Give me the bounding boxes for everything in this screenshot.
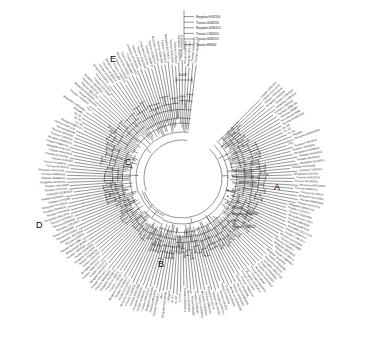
tree-branch [136,202,141,205]
tree-branch [132,208,139,213]
tree-branch [126,219,131,223]
inset-tip-label: Thiostan-GDB4/230 [196,21,219,25]
tree-branch [84,205,131,230]
tree-branch [93,113,140,148]
inset-tip-label: Mongolian-GDB/2012 [196,26,222,30]
tree-branch [150,106,152,111]
legend-symbol: ○ [227,182,229,185]
tree-branch [77,199,129,219]
tree-branch [146,149,151,153]
tree-branch [247,157,252,159]
tree-branch [152,222,155,227]
legend-label: Norovirus/GII/2009 [232,175,254,179]
tree-branch [161,251,163,259]
tree-branch [115,132,123,137]
tip-label: Thiostan-AH15/2012 [179,34,183,58]
scale-bar: 0.02 [176,72,192,83]
tree-branch [173,235,177,294]
tree-branch [122,217,128,221]
tree-branch [162,65,174,130]
tree-branch [206,215,211,223]
tree-branch [103,94,150,144]
tree-branch [244,173,252,174]
tree-branch [152,211,158,219]
tree-branch [70,158,128,168]
tree-branch [69,183,132,189]
tree-branch [67,180,130,182]
tree-branch [115,197,121,199]
tree-branch [71,193,136,214]
scale-bar-label: 0.02 [179,72,188,77]
tip-label: ITALY [86,105,94,112]
tip-label: Thiostan-SN38/2010 [41,176,65,180]
legend-label: Mongolian-01R20/2061 [232,212,260,216]
legend-symbol: ■ [227,195,229,198]
tree-branch [105,193,115,195]
tree-branch [152,116,154,121]
tree-branch [174,98,175,104]
tip-label: ILL-S3 [177,293,181,301]
legend-label: ITALY [232,219,239,223]
tree-branch [218,99,260,141]
legend-label: ILL-S3 [232,188,240,192]
tree-branch [221,143,226,147]
tree-branch [201,222,229,286]
tree-branch [177,110,178,119]
tree-branch [248,194,256,196]
tree-branch [129,229,155,276]
tree-branch [218,154,227,159]
legend-label: Thiostan-DOB5/2010 [232,181,257,185]
tree-branch [101,217,145,262]
tree-branch [149,205,153,208]
legend-symbol: ■ [227,201,229,204]
tree-branch [232,140,294,161]
tree-branch [84,131,130,153]
phylogenetic-tree-figure: Thiostan-A16/2811Thiostan-CD20/2011Thios… [0,0,370,346]
inset-tip-label: Mongolian-H16/2009 [196,15,221,19]
legend-symbol: ● [227,176,229,179]
inset-tip-label: Thiostan-HN0082 [196,43,217,47]
tree-branch [192,230,204,290]
tree-branch [206,250,208,256]
tree-branch [127,120,132,126]
tree-branch [231,126,238,132]
tree-branch [130,212,136,217]
tree-branch [82,118,135,150]
tree-branch [172,252,173,259]
tree-branch [183,235,184,286]
legend-label: ILL-S2 [232,194,240,198]
tree-canvas: Thiostan-A16/2811Thiostan-CD20/2011Thios… [0,0,370,346]
backbone-arc [142,191,164,216]
tree-branch [172,245,173,253]
tree-branch [190,223,201,289]
tree-branch [223,108,266,144]
tip-label: Thiostan-AH31/2012 [296,175,320,179]
tree-branch [244,140,249,143]
tree-branch [181,237,182,292]
tip-label: Thiostan-DOB5/2010 [183,288,187,313]
tree-arc [214,145,228,208]
legend-symbol: ● [227,170,229,173]
tree-branch [156,104,158,110]
tree-branch [242,150,249,153]
tree-branch [81,200,131,221]
tree-branch [195,247,196,252]
tree-branch [76,135,138,160]
legend-label: Thiostan-A16/2811 [232,169,254,173]
inset-tip-label: Thiostan-GDB5/201 [196,37,219,41]
legend-label: ILL-S1 [232,200,240,204]
tree-branch [231,195,287,215]
tree-branch [250,186,259,187]
tree-branch [191,218,192,223]
tree-branch [216,235,219,241]
backbone-arc [144,140,187,191]
tree-branch [168,120,169,126]
tree-branch [95,101,148,147]
inset-tip-label: Thiostan-CGB/2010 [196,32,219,36]
tree-branch [136,223,162,284]
tree-branch [116,203,122,205]
legend-label: Thiostan-TH20/2011 [232,225,256,229]
tree-branch [251,144,256,146]
backbone-arc [210,149,222,203]
tree-branch [254,156,260,158]
